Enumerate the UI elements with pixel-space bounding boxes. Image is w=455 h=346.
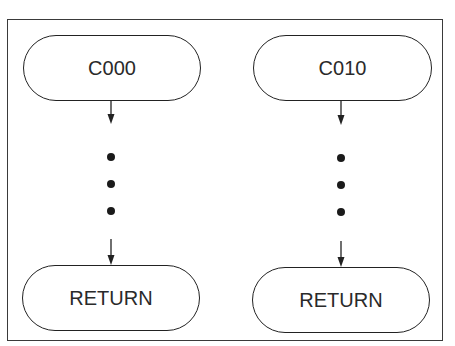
terminal-start-c000: C000 (23, 35, 201, 101)
terminal-label: RETURN (299, 290, 382, 310)
terminal-start-c010: C010 (253, 35, 432, 101)
terminal-label: RETURN (69, 288, 152, 308)
terminal-end-return-left: RETURN (22, 265, 200, 331)
terminal-end-return-right: RETURN (252, 267, 430, 333)
diagram-canvas: C000 RETURN C010 RETURN (0, 0, 455, 346)
terminal-label: C010 (319, 58, 367, 78)
terminal-label: C000 (88, 58, 136, 78)
